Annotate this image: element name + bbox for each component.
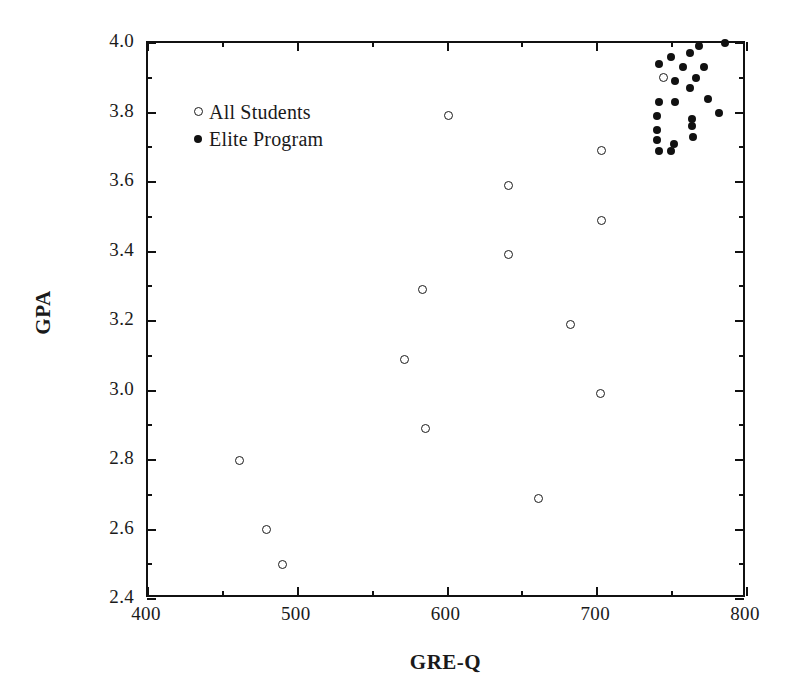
x-axis-major-tick (596, 587, 598, 596)
x-axis-major-tick (147, 587, 149, 596)
y-axis-tick-label: 3.0 (74, 379, 134, 398)
y-axis-minor-tick (147, 494, 152, 496)
data-point-all-students (566, 320, 575, 329)
y-axis-major-tick (147, 390, 156, 392)
data-point-elite-program (721, 39, 729, 47)
x-axis-top-major-tick (746, 42, 748, 51)
y-axis-minor-tick (147, 216, 152, 218)
data-point-all-students (235, 456, 244, 465)
y-axis-right-major-tick (735, 390, 744, 392)
x-axis-minor-tick (671, 591, 673, 596)
legend-item-elite-program: Elite Program (187, 125, 417, 152)
x-axis-top-minor-tick (671, 42, 673, 47)
y-axis-title: GPA (31, 253, 56, 373)
data-point-elite-program (667, 53, 675, 61)
y-axis-major-tick (147, 598, 156, 600)
y-axis-tick-label: 2.8 (74, 448, 134, 467)
data-point-all-students (418, 285, 427, 294)
y-axis-right-minor-tick (739, 146, 744, 148)
x-axis-top-major-tick (596, 42, 598, 51)
y-axis-right-minor-tick (739, 216, 744, 218)
x-axis-tick-label: 500 (261, 604, 331, 623)
y-axis-right-minor-tick (739, 494, 744, 496)
x-axis-tick-label: 400 (111, 604, 181, 623)
y-axis-right-minor-tick (739, 424, 744, 426)
y-axis-right-minor-tick (739, 563, 744, 565)
y-axis-right-major-tick (735, 459, 744, 461)
y-axis-right-major-tick (735, 251, 744, 253)
data-point-all-students (597, 146, 606, 155)
open-circle-icon (187, 107, 209, 116)
data-point-elite-program (653, 112, 661, 120)
data-point-all-students (534, 494, 543, 503)
x-axis-tick-label: 700 (560, 604, 630, 623)
x-axis-top-minor-tick (372, 42, 374, 47)
data-point-all-students (421, 424, 430, 433)
y-axis-right-major-tick (735, 181, 744, 183)
x-axis-top-minor-tick (222, 42, 224, 47)
data-point-elite-program (655, 98, 663, 106)
y-axis-major-tick (147, 112, 156, 114)
y-axis-major-tick (147, 251, 156, 253)
y-axis-minor-tick (147, 285, 152, 287)
data-point-elite-program (671, 77, 679, 85)
y-axis-right-major-tick (735, 598, 744, 600)
data-point-all-students (444, 111, 453, 120)
y-axis-tick-label: 4.0 (74, 31, 134, 50)
y-axis-minor-tick (147, 563, 152, 565)
y-axis-major-tick (147, 320, 156, 322)
legend-label-elite-program: Elite Program (209, 128, 323, 150)
data-point-all-students (597, 216, 606, 225)
x-axis-top-major-tick (297, 42, 299, 51)
y-axis-right-major-tick (735, 42, 744, 44)
y-axis-right-minor-tick (739, 355, 744, 357)
legend: All Students Elite Program (187, 98, 417, 152)
data-point-all-students (596, 389, 605, 398)
data-point-elite-program (692, 74, 700, 82)
x-axis-minor-tick (222, 591, 224, 596)
y-axis-tick-label: 3.6 (74, 170, 134, 189)
y-axis-right-major-tick (735, 112, 744, 114)
filled-circle-icon (187, 135, 209, 143)
data-point-elite-program (653, 136, 661, 144)
y-axis-right-major-tick (735, 529, 744, 531)
data-point-elite-program (700, 63, 708, 71)
data-point-all-students (262, 525, 271, 534)
y-axis-tick-label: 3.4 (74, 240, 134, 259)
data-point-elite-program (688, 115, 696, 123)
data-point-elite-program (715, 109, 723, 117)
data-point-elite-program (670, 140, 678, 148)
plot-area: All Students Elite Program (146, 41, 745, 597)
data-point-elite-program (655, 60, 663, 68)
legend-item-all-students: All Students (187, 98, 417, 125)
data-point-elite-program (655, 147, 663, 155)
data-point-elite-program (679, 63, 687, 71)
data-point-all-students (504, 250, 513, 259)
y-axis-tick-label: 3.2 (74, 309, 134, 328)
x-axis-tick-label: 600 (411, 604, 481, 623)
data-point-elite-program (686, 84, 694, 92)
x-axis-minor-tick (372, 591, 374, 596)
data-point-all-students (504, 181, 513, 190)
y-axis-minor-tick (147, 424, 152, 426)
x-axis-top-minor-tick (521, 42, 523, 47)
y-axis-tick-label: 3.8 (74, 101, 134, 120)
x-axis-tick-label: 800 (710, 604, 780, 623)
data-point-elite-program (667, 147, 675, 155)
data-point-elite-program (704, 95, 712, 103)
y-axis-minor-tick (147, 355, 152, 357)
data-point-elite-program (695, 42, 703, 50)
y-axis-major-tick (147, 459, 156, 461)
y-axis-minor-tick (147, 77, 152, 79)
data-point-all-students (400, 355, 409, 364)
x-axis-minor-tick (521, 591, 523, 596)
y-axis-right-minor-tick (739, 285, 744, 287)
data-point-elite-program (688, 122, 696, 130)
data-point-elite-program (689, 133, 697, 141)
y-axis-major-tick (147, 529, 156, 531)
data-point-elite-program (671, 98, 679, 106)
y-axis-minor-tick (147, 146, 152, 148)
x-axis-title: GRE-Q (146, 650, 745, 675)
y-axis-right-minor-tick (739, 77, 744, 79)
data-point-all-students (278, 560, 287, 569)
